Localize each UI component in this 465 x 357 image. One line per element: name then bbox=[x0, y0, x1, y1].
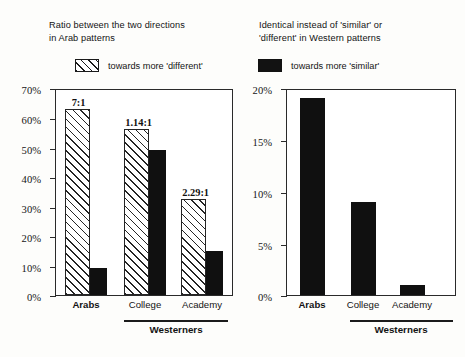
westerners-label-right: Westerners bbox=[374, 324, 427, 335]
legend-label-different: towards more 'different' bbox=[108, 61, 203, 71]
legend-item-different: towards more 'different' bbox=[75, 59, 203, 72]
bar-arabs-different[interactable]: 7:1 bbox=[65, 109, 90, 295]
bar-college-similar[interactable] bbox=[149, 150, 166, 295]
bar-academy-similar[interactable] bbox=[206, 251, 223, 295]
right-ytick-label-5: 5% bbox=[258, 240, 272, 251]
left-ytick-label-50: 50% bbox=[22, 144, 41, 155]
left-ytick-label-30: 30% bbox=[22, 203, 41, 214]
left-ytick-label-70: 70% bbox=[22, 85, 41, 96]
legend-item-similar: towards more 'similar' bbox=[258, 59, 379, 72]
xlabel-academy: Academy bbox=[182, 299, 222, 310]
left-bars: 7:1 Arabs 1.14:1 College 2.29:1 bbox=[56, 90, 232, 295]
bar-group-college: 1.14:1 College bbox=[124, 129, 166, 295]
right-panel: Identical instead of 'similar' or 'diffe… bbox=[237, 0, 465, 357]
legend-label-similar: towards more 'similar' bbox=[291, 61, 379, 71]
ratio-label-academy: 2.29:1 bbox=[182, 187, 209, 198]
bar-right-academy[interactable] bbox=[400, 285, 425, 295]
bar-group-academy-right: Academy bbox=[400, 285, 425, 295]
bar-right-college[interactable] bbox=[351, 202, 376, 295]
xlabel-college: College bbox=[129, 299, 162, 310]
left-ytick-0: 0% bbox=[50, 296, 56, 297]
bar-academy-different[interactable]: 2.29:1 bbox=[181, 199, 206, 295]
hatched-swatch-icon bbox=[75, 59, 99, 72]
figure-root: Ratio between the two directions in Arab… bbox=[0, 0, 465, 357]
bar-college-different[interactable]: 1.14:1 bbox=[124, 129, 149, 295]
bar-group-arabs-right: Arabs bbox=[300, 98, 325, 295]
bar-group-arabs: 7:1 Arabs bbox=[65, 109, 107, 295]
right-bars: Arabs College Academy bbox=[287, 90, 455, 295]
bar-arabs-similar[interactable] bbox=[90, 268, 107, 295]
xlabel-right-arabs: Arabs bbox=[298, 299, 325, 310]
right-ytick-label-10: 10% bbox=[253, 188, 272, 199]
right-ytick-0: 0% bbox=[281, 296, 287, 297]
left-ytick-label-10: 10% bbox=[22, 262, 41, 273]
ratio-label-college: 1.14:1 bbox=[125, 117, 152, 128]
right-ytick-label-15: 15% bbox=[253, 137, 272, 148]
left-ytick-label-0: 0% bbox=[27, 291, 41, 302]
solid-swatch-icon bbox=[258, 59, 282, 72]
xlabel-arabs: Arabs bbox=[72, 299, 99, 310]
left-ytick-label-20: 20% bbox=[22, 233, 41, 244]
left-ytick-label-40: 40% bbox=[22, 174, 41, 185]
right-panel-title: Identical instead of 'similar' or 'diffe… bbox=[259, 19, 454, 44]
right-ytick-label-20: 20% bbox=[253, 85, 272, 96]
bar-group-college-right: College bbox=[351, 202, 376, 295]
xlabel-right-academy: Academy bbox=[392, 299, 432, 310]
left-ytick-label-60: 60% bbox=[22, 114, 41, 125]
right-ytick-label-0: 0% bbox=[258, 291, 272, 302]
xlabel-right-college: College bbox=[347, 299, 380, 310]
left-plot-area: 70% 60% 50% 40% 30% 20% 10% 0% bbox=[55, 89, 233, 296]
westerners-label-left: Westerners bbox=[149, 324, 202, 335]
ratio-label-arabs: 7:1 bbox=[72, 97, 86, 108]
bar-right-arabs[interactable] bbox=[300, 98, 325, 295]
westerners-bracket-right bbox=[350, 320, 453, 322]
left-panel: Ratio between the two directions in Arab… bbox=[0, 0, 237, 357]
westerners-bracket-left bbox=[124, 320, 228, 322]
left-panel-title: Ratio between the two directions in Arab… bbox=[49, 19, 234, 44]
bar-group-academy: 2.29:1 Academy bbox=[181, 199, 223, 295]
right-plot-area: 20% 15% 10% 5% 0% Arabs bbox=[286, 89, 456, 296]
